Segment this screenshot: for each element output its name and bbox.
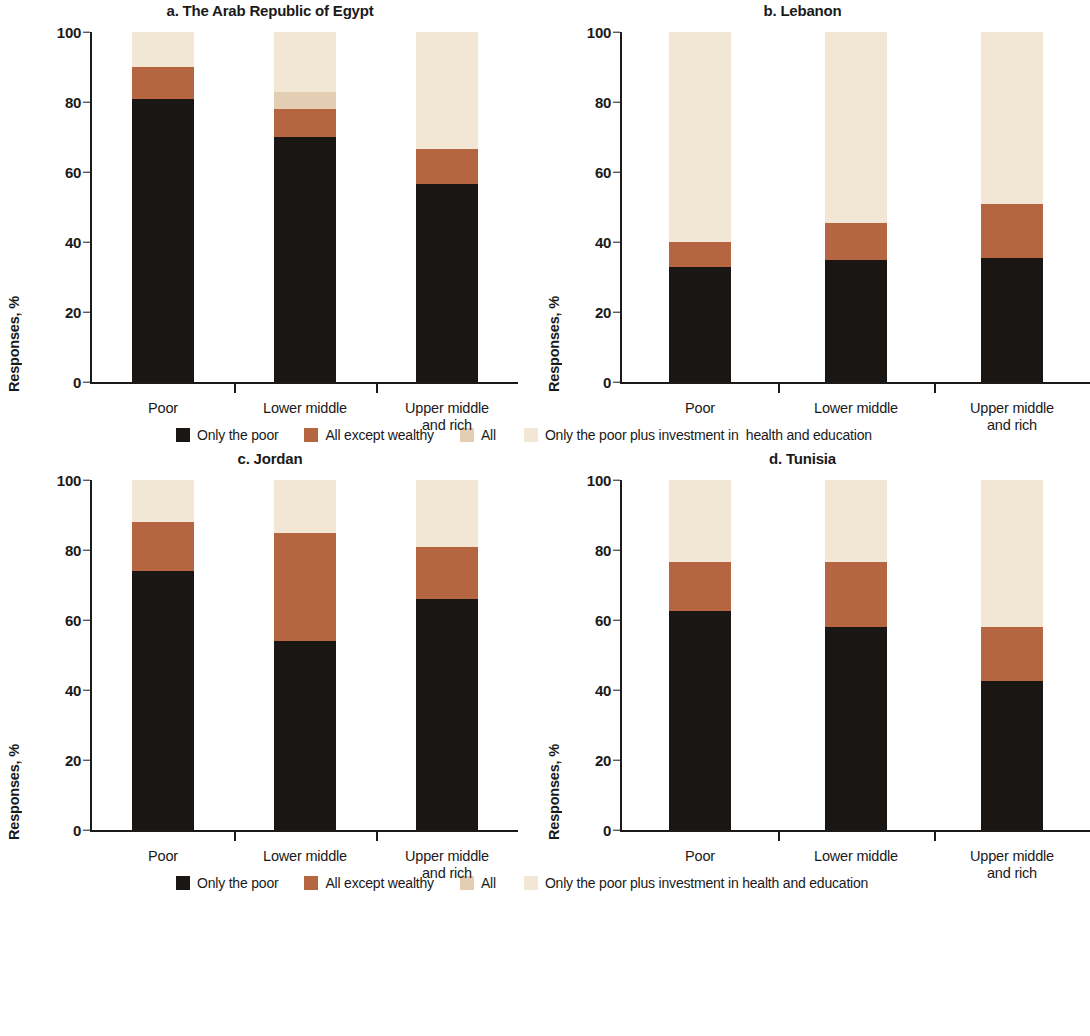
bar-segment xyxy=(669,32,731,242)
x-label-lower-middle: Lower middle xyxy=(778,848,934,882)
bar-segment xyxy=(416,184,478,382)
y-tick-0: 0 xyxy=(603,822,620,839)
x-label-upper-middle-line2: and rich xyxy=(422,417,472,433)
panel-title-lebanon: b. Lebanon xyxy=(540,0,1065,22)
y-tick-40: 40 xyxy=(595,234,620,251)
bar-segment xyxy=(825,32,887,223)
bar-segment xyxy=(274,480,336,533)
stacked-bar[interactable] xyxy=(132,32,194,382)
panel-row-top: a. The Arab Republic of Egypt Responses,… xyxy=(0,0,1065,422)
x-axis-labels-jordan: Poor Lower middle Upper middle and rich xyxy=(92,848,518,882)
bar-segment xyxy=(274,32,336,92)
plot-area-egypt: Responses, % 100 80 60 40 20 0 Poor xyxy=(0,22,540,422)
stacked-bar[interactable] xyxy=(981,480,1043,830)
bar-group-tunisia xyxy=(622,480,1090,830)
y-axis-label-jordan: Responses, % xyxy=(6,470,22,840)
bar-segment xyxy=(825,260,887,383)
x-axis-separator xyxy=(778,830,780,841)
x-axis-separator xyxy=(234,830,236,841)
bar-slot xyxy=(622,480,778,830)
stacked-bar[interactable] xyxy=(274,32,336,382)
y-tick-20: 20 xyxy=(65,752,90,769)
bar-slot xyxy=(92,32,234,382)
x-axis-separator xyxy=(376,830,378,841)
x-axis-separator xyxy=(934,830,936,841)
panel-title-tunisia: d. Tunisia xyxy=(540,448,1065,470)
x-label-poor: Poor xyxy=(92,400,234,434)
y-tick-80: 80 xyxy=(65,94,90,111)
y-tick-20: 20 xyxy=(65,304,90,321)
stacked-bar[interactable] xyxy=(825,480,887,830)
bar-slot xyxy=(92,480,234,830)
x-axis-labels-lebanon: Poor Lower middle Upper middle and rich xyxy=(622,400,1090,434)
bar-segment xyxy=(132,522,194,571)
bar-segment xyxy=(825,627,887,830)
y-tick-0: 0 xyxy=(73,374,90,391)
x-label-upper-middle-line2: and rich xyxy=(987,417,1037,433)
bar-segment xyxy=(981,258,1043,382)
x-label-lower-middle: Lower middle xyxy=(234,400,376,434)
stacked-bar[interactable] xyxy=(825,32,887,382)
bar-slot xyxy=(934,32,1090,382)
bar-slot xyxy=(376,480,518,830)
x-label-lower-middle: Lower middle xyxy=(234,848,376,882)
x-axis-line xyxy=(620,382,1090,384)
x-label-poor: Poor xyxy=(622,848,778,882)
bar-segment xyxy=(669,480,731,562)
y-tick-80: 80 xyxy=(595,94,620,111)
bar-segment xyxy=(825,223,887,260)
stacked-bar[interactable] xyxy=(669,32,731,382)
bar-segment xyxy=(669,611,731,830)
legend-swatch-only-poor-plus-investment xyxy=(524,428,538,442)
bar-slot xyxy=(934,480,1090,830)
bar-group-lebanon xyxy=(622,32,1090,382)
bar-segment xyxy=(132,67,194,99)
bar-segment xyxy=(274,109,336,137)
x-label-upper-middle-line1: Upper middle xyxy=(970,400,1054,416)
x-label-upper-middle: Upper middle and rich xyxy=(376,400,518,434)
legend-swatch-only-poor-plus-investment xyxy=(524,876,538,890)
bar-segment xyxy=(274,533,336,642)
y-tick-60: 60 xyxy=(595,612,620,629)
bar-segment xyxy=(981,32,1043,204)
plot-area-lebanon: Responses, % 100 80 60 40 20 0 Poor xyxy=(540,22,1065,422)
bar-segment xyxy=(132,99,194,383)
y-axis-jordan: 100 80 60 40 20 0 xyxy=(38,480,90,830)
y-tick-100: 100 xyxy=(587,24,620,41)
x-label-upper-middle-line1: Upper middle xyxy=(970,848,1054,864)
x-axis-labels-tunisia: Poor Lower middle Upper middle and rich xyxy=(622,848,1090,882)
bar-segment xyxy=(825,480,887,562)
y-tick-40: 40 xyxy=(65,682,90,699)
bar-segment xyxy=(416,599,478,830)
bar-slot xyxy=(234,32,376,382)
y-axis-label-lebanon: Responses, % xyxy=(546,22,562,392)
bar-segment xyxy=(274,641,336,830)
stacked-bar[interactable] xyxy=(981,32,1043,382)
stacked-bar[interactable] xyxy=(669,480,731,830)
y-tick-60: 60 xyxy=(65,164,90,181)
stacked-bar[interactable] xyxy=(416,32,478,382)
x-axis-separator xyxy=(934,382,936,393)
bar-segment xyxy=(416,480,478,547)
y-tick-100: 100 xyxy=(587,472,620,489)
panel-title-jordan: c. Jordan xyxy=(0,448,540,470)
x-axis-line xyxy=(620,830,1090,832)
y-axis-label-egypt: Responses, % xyxy=(6,22,22,392)
bar-segment xyxy=(132,480,194,522)
bar-slot xyxy=(778,32,934,382)
y-axis-lebanon: 100 80 60 40 20 0 xyxy=(568,32,620,382)
panel-title-egypt: a. The Arab Republic of Egypt xyxy=(0,0,540,22)
x-axis-line xyxy=(90,830,518,832)
bar-segment xyxy=(981,627,1043,681)
x-label-upper-middle-line1: Upper middle xyxy=(405,400,489,416)
y-tick-20: 20 xyxy=(595,752,620,769)
y-axis-tunisia: 100 80 60 40 20 0 xyxy=(568,480,620,830)
y-tick-40: 40 xyxy=(65,234,90,251)
y-tick-60: 60 xyxy=(65,612,90,629)
bar-segment xyxy=(274,92,336,110)
stacked-bar[interactable] xyxy=(274,480,336,830)
y-tick-40: 40 xyxy=(595,682,620,699)
bar-slot xyxy=(778,480,934,830)
stacked-bar[interactable] xyxy=(416,480,478,830)
stacked-bar[interactable] xyxy=(132,480,194,830)
